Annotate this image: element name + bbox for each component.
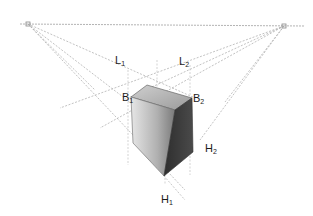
perspective-diagram [0,0,313,216]
label-l1: L1 [115,55,125,67]
box-drawing [131,85,193,176]
horizon-line [20,24,305,26]
label-h1: H1 [161,194,173,206]
label-b1: B1 [122,92,133,104]
label-h2: H2 [205,143,217,155]
label-b2: B2 [193,93,204,105]
label-l2: L2 [179,56,189,68]
